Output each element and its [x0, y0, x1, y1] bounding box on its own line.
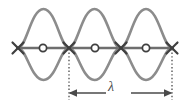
wave-canvas — [0, 0, 190, 108]
wave-trough-envelope — [18, 48, 172, 80]
standing-wave-diagram: λ — [0, 0, 190, 108]
wave-crest-envelope — [18, 9, 172, 48]
o-marker — [91, 44, 98, 51]
o-marker — [142, 44, 149, 51]
wavelength-arrow-right-head — [164, 89, 173, 96]
wavelength-dimension — [69, 89, 173, 96]
o-marker — [39, 44, 46, 51]
wavelength-arrow-left-head — [69, 89, 78, 96]
wavelength-symbol-label: λ — [108, 80, 114, 94]
